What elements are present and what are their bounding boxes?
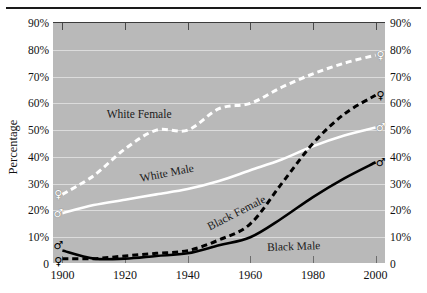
y-tick-label-right: 40% [390,151,424,163]
y-tick-label-left: 30% [15,178,49,190]
y-tick-label-right: 10% [390,231,424,243]
x-tick-label: 1920 [113,268,137,283]
x-tick-label: 1940 [176,268,200,283]
y-tick-label-right: 70% [390,71,424,83]
y-tick-label-right: 90% [390,17,424,29]
y-tick-label-left: 0 [15,258,49,270]
y-tick-label-right: 60% [390,97,424,109]
marker-white-female-start: ♀ [54,189,62,200]
y-tick-label-left: 70% [15,71,49,83]
marker-black-female-end: ♀ [377,90,385,101]
x-tick-label: 2000 [364,268,388,283]
marker-black-female-start: ♀ [54,255,62,266]
y-tick-label-right: 50% [390,124,424,136]
y-tick-label-left: 50% [15,124,49,136]
series-label-white-female: White Female [107,108,172,120]
y-tick-label-left: 40% [15,151,49,163]
line-white-female [62,55,375,194]
y-tick-label-right: 30% [390,178,424,190]
marker-white-female-end: ♀ [377,50,385,61]
line-black-male [62,162,375,259]
line-white-male [62,127,375,213]
x-tick-label: 1900 [50,268,74,283]
figure: Percentage 90%80%70%60%50%40%30%20%10%0 … [0,0,427,293]
series-label-black-male: Black Male [267,239,321,253]
marker-white-male-start: ♂ [53,208,63,219]
header-rule [6,7,421,9]
y-tick-label-left: 80% [15,44,49,56]
y-tick-label-right: 0 [390,258,424,270]
y-tick-label-left: 60% [15,97,49,109]
marker-black-male-end: ♂ [376,157,386,168]
y-tick-label-left: 10% [15,231,49,243]
x-tick-label: 1960 [238,268,262,283]
plot-area: 90%80%70%60%50%40%30%20%10%0 90%80%70%60… [53,22,385,263]
marker-black-male-start: ♂ [53,239,63,250]
marker-white-male-end: ♂ [376,122,386,133]
y-tick-label-right: 80% [390,44,424,56]
y-tick-label-left: 20% [15,204,49,216]
x-tick-label: 1980 [301,268,325,283]
y-tick-label-right: 20% [390,204,424,216]
y-tick-label-left: 90% [15,17,49,29]
